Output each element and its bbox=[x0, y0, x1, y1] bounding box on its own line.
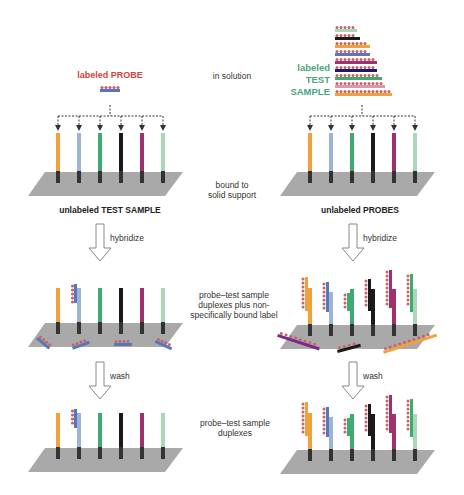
bound-to-solid-support-label: bound to solid support bbox=[190, 180, 274, 200]
labeled-test-sample-line-1: labeled bbox=[286, 62, 330, 74]
hybridize-arrow-left bbox=[89, 224, 111, 261]
row4-line-1: probe–test sample bbox=[190, 418, 280, 428]
bound-to-line: bound to bbox=[190, 180, 274, 190]
solid-support-right-2 bbox=[277, 270, 437, 354]
duplexes-label: probe–test sample duplexes bbox=[190, 418, 280, 438]
labeled-probe-icon bbox=[100, 86, 120, 92]
wash-label-right: wash bbox=[363, 371, 383, 381]
wash-arrow-left bbox=[89, 362, 111, 399]
solid-support-left-2 bbox=[28, 284, 183, 350]
labeled-test-sample-line-3: SAMPLE bbox=[286, 86, 330, 98]
solid-support-left-1 bbox=[28, 133, 183, 196]
hybridization-diagram: labeled PROBE in solution labeled TEST S… bbox=[0, 0, 464, 495]
labeled-test-sample-title: labeled TEST SAMPLE bbox=[286, 62, 330, 98]
row3-line-1: probe–test sample bbox=[184, 290, 284, 300]
duplexes-plus-nonspecific-label: probe–test sample duplexes plus non- spe… bbox=[184, 290, 284, 320]
solid-support-left-3 bbox=[28, 409, 183, 472]
solid-support-right-3 bbox=[280, 395, 435, 474]
hybridize-label-right: hybridize bbox=[363, 233, 397, 243]
distribution-arrows-right bbox=[310, 105, 415, 128]
hybridize-arrow-right bbox=[342, 224, 364, 261]
hybridize-label-left: hybridize bbox=[110, 233, 144, 243]
unlabeled-test-sample-label: unlabeled TEST SAMPLE bbox=[50, 205, 170, 215]
labeled-test-sample-line-2: TEST bbox=[286, 74, 330, 86]
unlabeled-probes-label: unlabeled PROBES bbox=[305, 205, 415, 215]
row3-line-3: specifically bound label bbox=[184, 310, 284, 320]
row4-line-2: duplexes bbox=[190, 428, 280, 438]
labeled-probe-title: labeled PROBE bbox=[72, 70, 148, 80]
row3-line-2: duplexes plus non- bbox=[184, 300, 284, 310]
labeled-test-sample-stack bbox=[335, 26, 392, 96]
solid-support-right-1 bbox=[280, 133, 435, 196]
in-solution-label: in solution bbox=[196, 71, 268, 81]
solid-support-line: solid support bbox=[190, 190, 274, 200]
wash-arrow-right bbox=[342, 362, 364, 399]
distribution-arrows-left bbox=[58, 105, 163, 128]
wash-label-left: wash bbox=[110, 371, 130, 381]
